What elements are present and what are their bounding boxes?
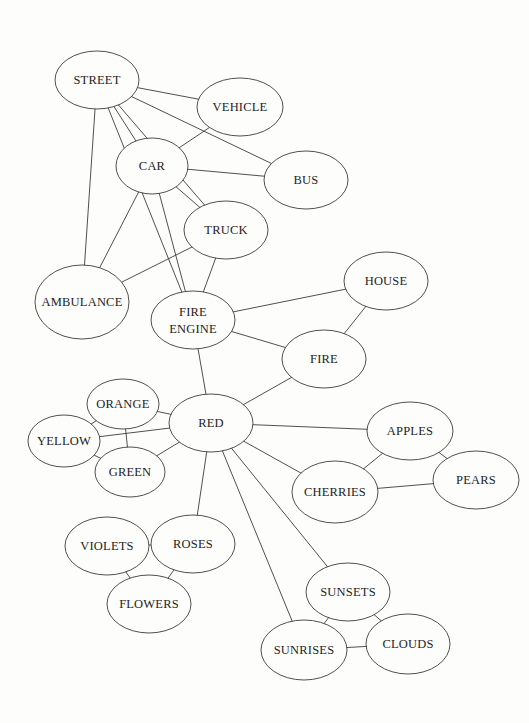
node-vehicle: VEHICLE bbox=[197, 78, 283, 136]
node-label: ENGINE bbox=[169, 322, 217, 336]
node-flowers: FLOWERS bbox=[107, 575, 191, 633]
node-label: APPLES bbox=[387, 424, 433, 438]
node-label: ORANGE bbox=[96, 397, 149, 411]
node-label: STREET bbox=[73, 73, 120, 87]
node-violets: VIOLETS bbox=[65, 517, 149, 575]
node-roses: ROSES bbox=[151, 515, 235, 573]
node-label: FIRE bbox=[310, 352, 338, 366]
node-street: STREET bbox=[55, 51, 139, 109]
node-green: GREEN bbox=[95, 447, 165, 497]
node-label: SUNSETS bbox=[320, 585, 376, 599]
node-label: AMBULANCE bbox=[42, 295, 123, 309]
node-label: CAR bbox=[139, 159, 166, 173]
node-label: ROSES bbox=[173, 537, 213, 551]
node-cherries: CHERRIES bbox=[292, 461, 378, 523]
node-ellipse bbox=[151, 291, 235, 349]
node-label: BUS bbox=[294, 173, 319, 187]
node-label: VIOLETS bbox=[80, 539, 133, 553]
node-sunsets: SUNSETS bbox=[306, 563, 390, 621]
node-yellow: YELLOW bbox=[28, 415, 100, 467]
node-label: YELLOW bbox=[37, 434, 91, 448]
node-label: GREEN bbox=[109, 465, 152, 479]
node-red: RED bbox=[169, 394, 253, 452]
node-car: CAR bbox=[116, 138, 188, 194]
node-house: HOUSE bbox=[344, 252, 428, 310]
node-fire-engine: FIREENGINE bbox=[151, 291, 235, 349]
node-ambulance: AMBULANCE bbox=[35, 265, 129, 339]
node-clouds: CLOUDS bbox=[366, 614, 450, 674]
node-pears: PEARS bbox=[433, 451, 519, 509]
semantic-network-diagram: STREETVEHICLECARBUSTRUCKAMBULANCEFIREENG… bbox=[0, 0, 529, 723]
node-sunrises: SUNRISES bbox=[261, 620, 347, 680]
node-truck: TRUCK bbox=[184, 201, 268, 259]
nodes-layer: STREETVEHICLECARBUSTRUCKAMBULANCEFIREENG… bbox=[28, 51, 519, 680]
node-label: FLOWERS bbox=[119, 597, 179, 611]
node-label: CLOUDS bbox=[382, 637, 433, 651]
node-label: RED bbox=[198, 416, 224, 430]
node-orange: ORANGE bbox=[87, 379, 159, 429]
node-bus: BUS bbox=[264, 151, 348, 209]
node-label: VEHICLE bbox=[213, 100, 268, 114]
node-apples: APPLES bbox=[367, 402, 453, 460]
node-label: PEARS bbox=[456, 473, 496, 487]
node-fire: FIRE bbox=[282, 330, 366, 388]
node-label: CHERRIES bbox=[304, 485, 366, 499]
node-label: HOUSE bbox=[365, 274, 408, 288]
node-label: SUNRISES bbox=[274, 643, 335, 657]
node-label: TRUCK bbox=[204, 223, 247, 237]
node-label: FIRE bbox=[179, 305, 207, 319]
